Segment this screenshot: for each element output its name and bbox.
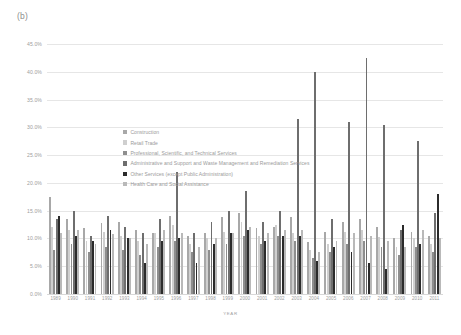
bar	[95, 244, 97, 294]
year-group	[340, 44, 357, 294]
bar	[146, 244, 148, 294]
bar	[353, 233, 355, 294]
bar	[301, 230, 303, 294]
bar	[267, 233, 269, 294]
year-group	[47, 44, 64, 294]
x-axis-tick: 2011	[426, 296, 443, 301]
year-group	[409, 44, 426, 294]
x-axis-tick: 1996	[168, 296, 185, 301]
bar	[249, 227, 251, 294]
x-axis-tick: 2010	[409, 296, 426, 301]
y-axis-tick: 45.0%	[27, 41, 42, 47]
bar	[404, 247, 406, 294]
x-axis-tick: 1993	[116, 296, 133, 301]
x-axis-tick: 1990	[64, 296, 81, 301]
year-group	[81, 44, 98, 294]
legend-item: Professional, Scientific, and Technical …	[123, 148, 309, 158]
bar	[336, 241, 338, 294]
panel-label: (b)	[17, 11, 28, 21]
bar	[366, 58, 368, 294]
x-axis-tick: 1992	[99, 296, 116, 301]
x-axis-tick: 2004	[305, 296, 322, 301]
legend-item: Health Care and Social Assistance	[123, 179, 309, 189]
gridline	[47, 294, 443, 295]
bar	[215, 238, 217, 294]
x-axis-tick: 2003	[288, 296, 305, 301]
year-group	[99, 44, 116, 294]
y-axis-tick: 5.0%	[30, 263, 42, 269]
legend: ConstructionRetail TradeProfessional, Sc…	[123, 127, 309, 189]
legend-item-label: Health Care and Social Assistance	[130, 181, 208, 187]
x-axis-tick: 1995	[150, 296, 167, 301]
bar	[129, 238, 131, 294]
bar	[163, 230, 165, 294]
x-axis-tick: 1989	[47, 296, 64, 301]
x-axis-tick: 2007	[357, 296, 374, 301]
bar	[422, 230, 424, 294]
legend-swatch-icon	[123, 182, 127, 186]
bar	[181, 233, 183, 294]
plot-area: ConstructionRetail TradeProfessional, Sc…	[47, 44, 443, 294]
legend-item-label: Other Services (except Public Administra…	[130, 171, 233, 177]
legend-item: Construction	[123, 127, 309, 137]
year-group	[391, 44, 408, 294]
year-group	[323, 44, 340, 294]
bar	[198, 247, 200, 294]
legend-item-label: Retail Trade	[130, 140, 158, 146]
y-axis-tick: 40.0%	[27, 69, 42, 75]
bar	[318, 252, 320, 294]
y-axis-tick: 25.0%	[27, 152, 42, 158]
y-axis-tick-labels: 0.0%5.0%10.0%15.0%20.0%25.0%30.0%35.0%40…	[0, 44, 45, 294]
bar	[387, 241, 389, 294]
x-axis-tick: 1999	[219, 296, 236, 301]
bar	[284, 230, 286, 294]
legend-swatch-icon	[123, 161, 127, 165]
legend-item: Retail Trade	[123, 137, 309, 147]
bar	[439, 238, 441, 294]
legend-swatch-icon	[123, 130, 127, 134]
figure-panel-b: (b) 0.0%5.0%10.0%15.0%20.0%25.0%30.0%35.…	[0, 0, 461, 335]
bar	[232, 233, 234, 294]
legend-item-label: Professional, Scientific, and Technical …	[130, 150, 237, 156]
y-axis-tick: 10.0%	[27, 235, 42, 241]
legend-swatch-icon	[123, 140, 127, 144]
year-group	[64, 44, 81, 294]
x-axis-tick: 2009	[391, 296, 408, 301]
year-group	[357, 44, 374, 294]
y-axis-tick: 30.0%	[27, 124, 42, 130]
legend-item: Other Services (except Public Administra…	[123, 169, 309, 179]
bar	[77, 230, 79, 294]
x-axis-tick-labels: 1989199019911992199319941995199619971998…	[47, 296, 443, 301]
x-axis-tick: 2000	[236, 296, 253, 301]
x-axis-tick: 2008	[374, 296, 391, 301]
bar	[60, 233, 62, 294]
legend-item: Administrative and Support and Waste Man…	[123, 158, 309, 168]
x-axis-tick: 1998	[202, 296, 219, 301]
x-axis-title: YEAR	[0, 311, 461, 316]
bar	[112, 234, 114, 294]
legend-item-label: Administrative and Support and Waste Man…	[130, 160, 309, 166]
y-axis-tick: 15.0%	[27, 208, 42, 214]
x-axis-tick: 1997	[185, 296, 202, 301]
x-axis-tick: 2005	[323, 296, 340, 301]
y-axis-tick: 20.0%	[27, 180, 42, 186]
legend-item-label: Construction	[130, 129, 159, 135]
x-axis-tick: 2006	[340, 296, 357, 301]
x-axis-tick: 2002	[271, 296, 288, 301]
y-axis-tick: 0.0%	[30, 291, 42, 297]
legend-swatch-icon	[123, 172, 127, 176]
bar	[370, 236, 372, 294]
y-axis-tick: 35.0%	[27, 97, 42, 103]
year-group	[426, 44, 443, 294]
x-axis-tick: 1994	[133, 296, 150, 301]
x-axis-tick: 1991	[81, 296, 98, 301]
x-axis-tick: 2001	[254, 296, 271, 301]
legend-swatch-icon	[123, 151, 127, 155]
year-group	[374, 44, 391, 294]
